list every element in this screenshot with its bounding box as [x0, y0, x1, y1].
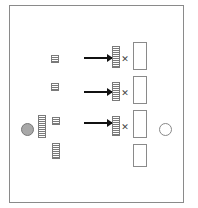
small-ladder-block — [51, 55, 59, 63]
small-ladder-block — [51, 83, 59, 91]
diagram-frame — [9, 5, 184, 203]
right-arrow-icon — [84, 91, 112, 93]
right-arrow-icon — [84, 57, 112, 59]
target-ladder-block — [112, 82, 120, 101]
left-tall-ladder — [38, 115, 46, 138]
slot-rectangle — [133, 144, 147, 167]
small-ladder-block — [52, 143, 60, 159]
slot-rectangle — [133, 76, 147, 104]
x-mark-icon: ✕ — [121, 89, 129, 97]
target-ladder-block — [112, 116, 120, 136]
target-ladder-block — [112, 46, 120, 68]
x-mark-icon: ✕ — [121, 123, 129, 131]
right-arrow-icon — [84, 122, 112, 124]
small-ladder-block — [52, 117, 60, 125]
x-mark-icon: ✕ — [121, 55, 129, 63]
slot-rectangle — [133, 42, 147, 70]
filled-circle-icon — [21, 123, 34, 136]
open-circle-icon — [159, 123, 172, 136]
slot-rectangle — [133, 110, 147, 138]
